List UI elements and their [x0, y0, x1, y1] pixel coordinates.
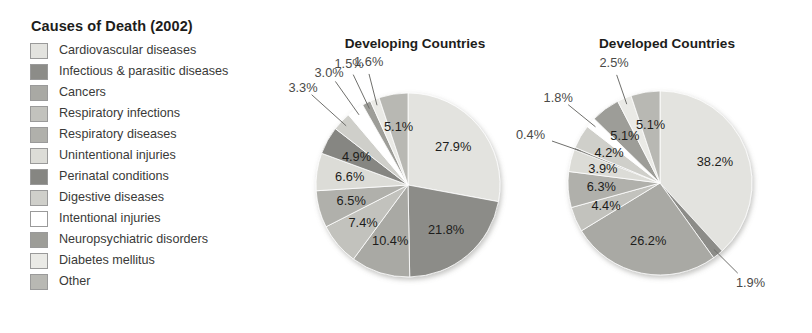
legend-item-label: Respiratory infections [59, 107, 180, 120]
label-leader-line [568, 105, 595, 127]
legend-item: Intentional injuries [30, 208, 280, 229]
pie-chart-developed: Developed Countries 38.2%1.9%26.2%4.4%6.… [552, 30, 782, 333]
pie-slice-label: 0.4% [516, 128, 545, 141]
label-leader-line [335, 81, 359, 114]
figure-root: Causes of Death (2002) Cardiovascular di… [0, 0, 812, 333]
legend-swatch-icon [30, 106, 48, 122]
pie-slice-label: 4.2% [595, 147, 624, 160]
pie-slice-label: 38.2% [697, 155, 733, 168]
legend-item: Cancers [30, 82, 280, 103]
pie-chart-developing: Developing Countries 27.9%21.8%10.4%7.4%… [300, 30, 530, 333]
legend-title: Causes of Death (2002) [31, 18, 280, 34]
legend-swatch-icon [30, 127, 48, 143]
legend-item-label: Respiratory diseases [59, 128, 177, 141]
legend-item: Neuropsychiatric disorders [30, 229, 280, 250]
pie-slice-label: 3.3% [288, 82, 317, 95]
pie-slice-label: 26.2% [630, 234, 666, 247]
legend-swatch-icon [30, 43, 48, 59]
legend-item-label: Cancers [59, 86, 106, 99]
legend-item-label: Unintentional injuries [59, 149, 176, 162]
label-leader-line [714, 249, 738, 273]
pie-slice-label: 1.8% [544, 91, 573, 104]
pie-slice-label: 2.5% [600, 57, 629, 70]
pie-slice-label: 5.1% [636, 118, 665, 131]
legend-swatch-icon [30, 253, 48, 269]
legend-swatch-icon [30, 232, 48, 248]
pie-slice-label: 4.4% [591, 200, 620, 213]
pie-slice-label: 6.6% [335, 170, 364, 183]
legend-item: Infectious & parasitic diseases [30, 61, 280, 82]
legend-item-label: Diabetes mellitus [59, 254, 155, 267]
legend-item: Unintentional injuries [30, 145, 280, 166]
legend-item-label: Intentional injuries [59, 212, 161, 225]
pie-slice-label: 4.9% [342, 150, 371, 163]
legend-item-label: Infectious & parasitic diseases [59, 65, 228, 78]
legend-item: Respiratory diseases [30, 124, 280, 145]
pie-slice-label: 3.9% [588, 162, 617, 175]
legend-item-label: Other [59, 275, 91, 288]
pie-slice-label: 1.9% [736, 277, 765, 290]
legend-item-label: Neuropsychiatric disorders [59, 233, 208, 246]
legend-swatch-icon [30, 169, 48, 185]
legend-item: Digestive diseases [30, 187, 280, 208]
pie-slice-label: 27.9% [435, 141, 471, 154]
pie-slice-label: 21.8% [428, 223, 464, 236]
pie-slice-label: 1.6% [354, 56, 383, 69]
legend-swatch-icon [30, 85, 48, 101]
legend-swatch-icon [30, 64, 48, 80]
pie-slice-label: 10.4% [372, 235, 408, 248]
legend-swatch-icon [30, 190, 48, 206]
legend: Causes of Death (2002) Cardiovascular di… [30, 18, 280, 292]
chart-title-developed: Developed Countries [552, 36, 782, 51]
legend-item: Diabetes mellitus [30, 250, 280, 271]
legend-swatch-icon [30, 274, 48, 290]
pie-slice-label: 6.3% [587, 181, 616, 194]
pie-slice-label: 6.5% [337, 194, 366, 207]
legend-item: Perinatal conditions [30, 166, 280, 187]
legend-item: Cardiovascular diseases [30, 40, 280, 61]
legend-item-label: Perinatal conditions [59, 170, 169, 183]
chart-title-developing: Developing Countries [300, 36, 530, 51]
pie-slice-label: 5.1% [384, 120, 413, 133]
legend-item: Respiratory infections [30, 103, 280, 124]
legend-list: Cardiovascular diseasesInfectious & para… [30, 40, 280, 292]
legend-swatch-icon [30, 148, 48, 164]
legend-item: Other [30, 271, 280, 292]
pie-slice-label: 7.4% [349, 217, 378, 230]
legend-swatch-icon [30, 211, 48, 227]
label-leader-line [312, 95, 347, 126]
legend-item-label: Cardiovascular diseases [59, 44, 196, 57]
label-leader-line [353, 75, 369, 109]
legend-item-label: Digestive diseases [59, 191, 164, 204]
